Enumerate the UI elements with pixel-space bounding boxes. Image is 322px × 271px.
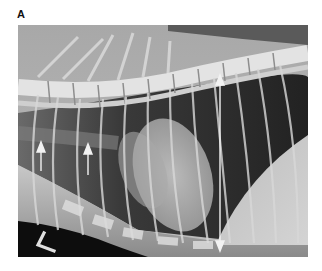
panel-label: A [17, 9, 25, 20]
radiograph-image [18, 25, 308, 257]
